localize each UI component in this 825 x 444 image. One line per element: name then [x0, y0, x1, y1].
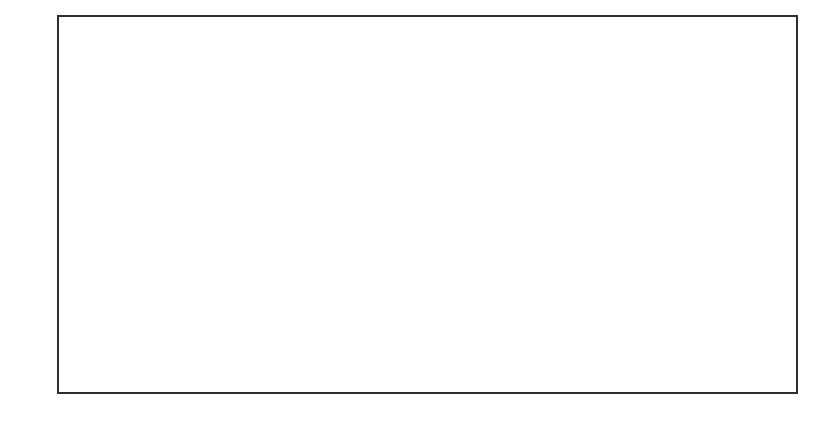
map-frame [58, 16, 797, 393]
world-map [0, 0, 825, 444]
